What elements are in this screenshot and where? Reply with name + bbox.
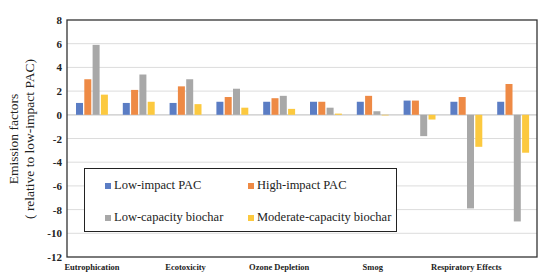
bar [288, 109, 295, 115]
bar [506, 84, 513, 115]
bar [522, 115, 529, 153]
bar [318, 102, 325, 115]
legend-label: Low-capacity biochar [114, 210, 223, 225]
bar [93, 45, 100, 115]
bar [357, 102, 364, 115]
x-category-label: Smog [363, 262, 384, 272]
x-axis-labels: EutrophicationEcotoxicityOzone Depletion… [64, 262, 502, 272]
y-axis-ticks: 86420-2-4-6-8-10-12 [47, 14, 62, 263]
legend-label: High-impact PAC [257, 178, 346, 193]
bar [148, 102, 155, 115]
bar [123, 103, 130, 115]
legend-label: Low-impact PAC [114, 178, 201, 193]
bar [216, 102, 223, 115]
bar [450, 102, 457, 115]
legend-item-low-impact-pac: Low-impact PAC [105, 178, 201, 193]
bar [131, 90, 138, 115]
y-tick-label: -6 [53, 180, 63, 192]
bar [420, 115, 427, 136]
y-axis-title: Emission factors ( relative to low-impac… [2, 20, 42, 257]
bar [225, 97, 232, 115]
bar [475, 115, 482, 147]
x-category-label: Ozone Depletion [249, 262, 309, 272]
bar [263, 102, 270, 115]
legend-swatch-icon [105, 215, 111, 221]
bar [514, 115, 521, 222]
bar [382, 115, 389, 116]
bar [139, 75, 146, 115]
y-tick-label: 6 [57, 38, 63, 50]
bar [365, 96, 372, 115]
bar [327, 108, 334, 115]
x-category-label: Eutrophication [64, 262, 119, 272]
legend-item-low-capacity-biochar: Low-capacity biochar [105, 210, 223, 225]
x-category-label: Ecotoxicity [165, 262, 206, 272]
bar [280, 96, 287, 115]
bar [335, 114, 342, 115]
y-axis-title-line1: Emission factors [6, 59, 22, 219]
bar [429, 115, 436, 120]
y-tick-label: -4 [53, 156, 63, 168]
bar [459, 97, 466, 115]
y-tick-label: 8 [57, 14, 63, 26]
bar [186, 79, 193, 115]
x-category-label: Respiratory Effects [431, 262, 502, 272]
bar [467, 115, 474, 209]
bar [195, 104, 202, 115]
bar [178, 86, 185, 114]
y-tick-label: -12 [47, 251, 62, 263]
legend-item-high-impact-pac: High-impact PAC [248, 178, 346, 193]
bar [373, 111, 380, 115]
bar-chart: 86420-2-4-6-8-10-12 EutrophicationEcotox… [0, 0, 556, 280]
bar [310, 102, 317, 115]
legend-swatch-icon [248, 183, 254, 189]
bar [101, 95, 108, 115]
bar [84, 79, 91, 115]
legend-label: Moderate-capacity biochar [257, 210, 391, 225]
bar [76, 103, 83, 115]
bar [272, 98, 279, 115]
y-axis-title-line2: ( relative to low-impact PAC) [22, 59, 38, 219]
bar [233, 89, 240, 115]
y-tick-label: -8 [53, 204, 63, 216]
legend-swatch-icon [248, 215, 254, 221]
y-tick-label: -10 [47, 227, 62, 239]
y-tick-label: 0 [57, 109, 63, 121]
bar [404, 101, 411, 115]
bar [241, 108, 248, 115]
bar [412, 101, 419, 115]
legend: Low-impact PAC High-impact PAC Low-capac… [84, 168, 397, 232]
y-tick-label: 2 [57, 85, 63, 97]
y-tick-label: -2 [53, 133, 63, 145]
legend-item-moderate-capacity-biochar: Moderate-capacity biochar [248, 210, 391, 225]
bar [170, 103, 177, 115]
legend-swatch-icon [105, 183, 111, 189]
bar [497, 102, 504, 115]
y-tick-label: 4 [57, 61, 63, 73]
